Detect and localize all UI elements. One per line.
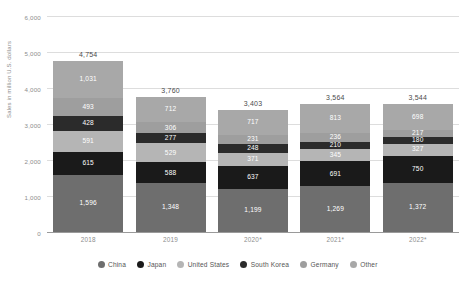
legend-item[interactable]: Germany: [300, 261, 339, 268]
bar-segment[interactable]: 1,372: [383, 183, 453, 232]
bar-segment[interactable]: 637: [218, 166, 288, 189]
bar-segment[interactable]: 529: [136, 143, 206, 162]
bar-segment-label: 248: [247, 145, 258, 152]
y-axis-tick-label: 2,000: [25, 158, 41, 165]
bar-column[interactable]: 3,4037172312483716371,199: [218, 110, 288, 232]
bar-segment[interactable]: 1,269: [300, 186, 370, 232]
bar-segment-label: 277: [165, 135, 176, 142]
bar-segment[interactable]: 750: [383, 156, 453, 183]
y-axis-tick-label: 5,000: [25, 50, 41, 57]
bar-segment-label: 1,199: [244, 207, 261, 214]
legend-swatch-icon: [98, 261, 105, 268]
bar-segment-label: 371: [247, 156, 258, 163]
bar-segment-label: 231: [247, 136, 258, 143]
bar-segment[interactable]: 236: [300, 133, 370, 141]
bar-segment[interactable]: 615: [53, 152, 123, 174]
legend-item-label: Germany: [311, 261, 339, 268]
bar-total-label: 3,564: [300, 94, 370, 101]
bar-segment-label: 750: [412, 166, 423, 173]
bar-segment[interactable]: 248: [218, 144, 288, 153]
bar-segment-label: 712: [165, 106, 176, 113]
bar-segment-label: 236: [330, 134, 341, 141]
bar-column[interactable]: 3,5446982171803277501,372: [383, 104, 453, 232]
chart-page: Sales in million U.S. dollars 01,0002,00…: [0, 0, 475, 293]
legend-swatch-icon: [300, 261, 307, 268]
legend-item[interactable]: South Korea: [240, 261, 289, 268]
bar-column[interactable]: 3,5648132362103456911,269: [300, 104, 370, 232]
y-axis-tick-label: 3,000: [25, 122, 41, 129]
legend-item-label: South Korea: [251, 261, 289, 268]
bar-total-label: 3,403: [218, 100, 288, 107]
y-axis-tick-label: 1,000: [25, 194, 41, 201]
bar-column[interactable]: 4,7541,0314934285916151,596: [53, 61, 123, 232]
bar-segment-label: 345: [330, 152, 341, 159]
bar-segment-label: 691: [330, 171, 341, 178]
bar-segment[interactable]: 327: [383, 144, 453, 156]
bar-segment[interactable]: 277: [136, 133, 206, 143]
bar-segment[interactable]: 345: [300, 149, 370, 161]
bar-segment[interactable]: 1,596: [53, 175, 123, 232]
x-axis-labels: 201820192020*2021*2022*: [47, 236, 459, 250]
bar-segment[interactable]: 231: [218, 135, 288, 143]
legend-item[interactable]: Japan: [137, 261, 166, 268]
bar-segment-label: 217: [412, 130, 423, 137]
bar-segment-label: 210: [330, 142, 341, 149]
bar-segment[interactable]: 210: [300, 142, 370, 150]
legend-item[interactable]: China: [98, 261, 126, 268]
y-axis-tick-label: 0: [37, 230, 41, 237]
bar-segment-label: 698: [412, 114, 423, 121]
bar-segment-label: 1,372: [409, 204, 426, 211]
legend-swatch-icon: [350, 261, 357, 268]
bar-segment[interactable]: 217: [383, 130, 453, 138]
legend-item-label: Japan: [147, 261, 166, 268]
bar-segment-label: 327: [412, 146, 423, 153]
bar-segment[interactable]: 813: [300, 104, 370, 133]
legend-item-label: Other: [360, 261, 377, 268]
chart-legend: ChinaJapanUnited StatesSouth KoreaGerman…: [0, 261, 475, 268]
x-axis-tick-label: 2021*: [300, 236, 370, 250]
bar-segment[interactable]: 588: [136, 162, 206, 183]
x-axis-tick-label: 2020*: [218, 236, 288, 250]
bar-total-label: 3,544: [383, 94, 453, 101]
bar-segment[interactable]: 371: [218, 153, 288, 166]
bar-segment-label: 1,269: [327, 206, 344, 213]
bar-segment-label: 1,031: [80, 76, 97, 83]
bar-segment[interactable]: 493: [53, 98, 123, 116]
bar-segment[interactable]: 1,031: [53, 61, 123, 98]
bar-segment[interactable]: 1,348: [136, 183, 206, 232]
y-axis-tick-label: 4,000: [25, 86, 41, 93]
legend-item[interactable]: United States: [177, 261, 229, 268]
bar-total-label: 3,760: [136, 87, 206, 94]
bar-group: 4,7541,0314934285916151,5963,76071230627…: [47, 16, 459, 232]
legend-swatch-icon: [240, 261, 247, 268]
bar-segment-label: 591: [82, 138, 93, 145]
bar-column[interactable]: 3,7607123062775295881,348: [136, 97, 206, 232]
bar-segment[interactable]: 591: [53, 131, 123, 152]
bar-segment-label: 637: [247, 174, 258, 181]
bar-segment-label: 306: [165, 125, 176, 132]
bar-segment-label: 717: [247, 119, 258, 126]
bar-segment-label: 588: [165, 170, 176, 177]
legend-swatch-icon: [177, 261, 184, 268]
x-axis-tick-label: 2019: [136, 236, 206, 250]
bar-segment[interactable]: 691: [300, 161, 370, 186]
bar-segment[interactable]: 428: [53, 116, 123, 131]
bar-segment[interactable]: 712: [136, 97, 206, 123]
bar-segment-label: 529: [165, 150, 176, 157]
x-axis-tick-label: 2022*: [383, 236, 453, 250]
bar-segment-label: 428: [82, 120, 93, 127]
bar-segment[interactable]: 306: [136, 122, 206, 133]
y-axis-tick-label: 6,000: [25, 14, 41, 21]
bar-segment[interactable]: 1,199: [218, 189, 288, 232]
legend-item-label: China: [108, 261, 126, 268]
bar-segment[interactable]: 698: [383, 104, 453, 129]
x-axis-tick-label: 2018: [53, 236, 123, 250]
bar-segment[interactable]: 717: [218, 110, 288, 136]
x-axis-line: [47, 232, 459, 233]
plot-area: 01,0002,0003,0004,0005,0006,000 4,7541,0…: [47, 16, 459, 233]
y-axis-title: Sales in million U.S. dollars: [6, 41, 12, 118]
bar-segment-label: 1,596: [80, 200, 97, 207]
bar-segment-label: 813: [330, 115, 341, 122]
legend-item-label: United States: [188, 261, 230, 268]
legend-item[interactable]: Other: [350, 261, 378, 268]
